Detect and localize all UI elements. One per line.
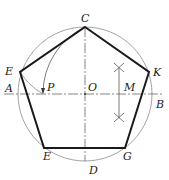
pentagon-construction-diagram: C E K A P O M B E G D [0,0,169,180]
label-b: B [155,98,164,111]
label-d: D [88,164,98,177]
label-p: P [46,81,55,94]
label-a: A [4,82,13,95]
label-e-lower: E [42,150,51,163]
label-m: M [123,81,136,94]
label-c: C [81,12,90,25]
label-k: K [152,66,162,79]
label-o: O [88,81,97,94]
label-g: G [123,150,132,163]
center-point-o [84,93,86,95]
label-e-upper: E [4,65,13,78]
